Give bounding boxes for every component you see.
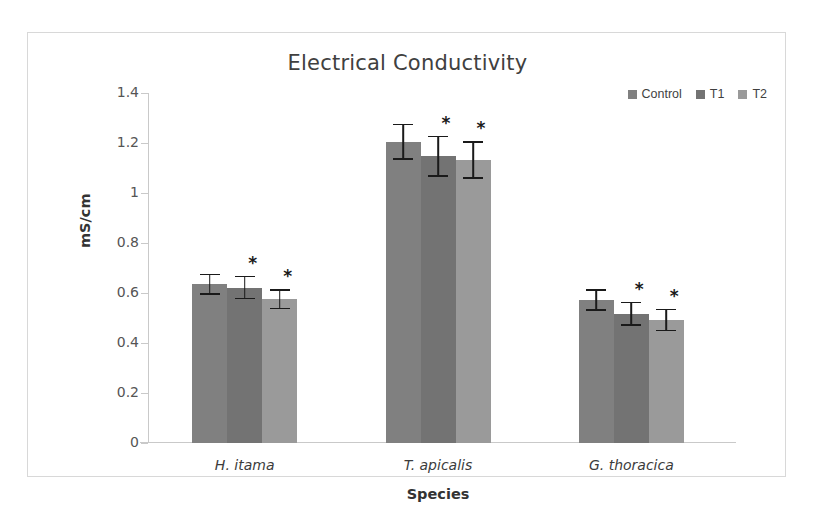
error-bar-cap-bottom — [200, 293, 220, 295]
error-bar — [621, 302, 641, 326]
y-tick-mark — [141, 243, 148, 244]
y-tick-mark — [141, 293, 148, 294]
bar-group-1: **H. itama — [192, 93, 297, 443]
error-bar-line — [244, 276, 246, 300]
error-bar-cap-bottom — [621, 324, 641, 326]
significance-marker: * — [477, 120, 486, 137]
y-tick-mark — [141, 143, 148, 144]
error-bar — [463, 141, 483, 179]
error-bar — [200, 274, 220, 296]
error-bar-line — [279, 289, 281, 309]
error-bar-cap-bottom — [656, 330, 676, 332]
y-tick-label: 1.4 — [117, 84, 139, 100]
bar-t2-3[interactable] — [649, 320, 684, 443]
plot-area: 00.20.40.60.811.21.4 **H. itama**T. apic… — [148, 93, 728, 443]
bar-group-3: **G. thoracica — [579, 93, 684, 443]
y-tick-label: 0.6 — [117, 284, 139, 300]
x-tick-label: T. apicalis — [404, 457, 473, 473]
bar-control-3[interactable] — [579, 300, 614, 443]
y-axis-line — [148, 93, 149, 443]
y-tick-label: 0 — [130, 434, 139, 450]
error-bar-line — [666, 309, 668, 332]
bar-slot: * — [227, 93, 262, 443]
error-bar-cap-bottom — [428, 175, 448, 177]
error-bar — [393, 124, 413, 161]
significance-marker: * — [635, 281, 644, 298]
bar-control-1[interactable] — [192, 284, 227, 443]
error-bar-line — [472, 141, 474, 179]
x-tick-label: G. thoracica — [589, 457, 674, 473]
bar-slot: * — [649, 93, 684, 443]
bar-slot — [192, 93, 227, 443]
y-tick-mark — [141, 93, 148, 94]
y-tick-label: 0.4 — [117, 334, 139, 350]
error-bar-cap-top — [200, 274, 220, 276]
significance-marker: * — [283, 268, 292, 285]
x-tick-label: H. itama — [215, 457, 275, 473]
chart-title: Electrical Conductivity — [28, 51, 787, 75]
x-axis-title: Species — [148, 486, 728, 502]
bar-t1-2[interactable] — [421, 156, 456, 443]
legend-label: T2 — [752, 87, 767, 101]
y-tick-mark — [141, 393, 148, 394]
bar-slot: * — [262, 93, 297, 443]
error-bar-line — [209, 274, 211, 296]
error-bar-cap-bottom — [393, 158, 413, 160]
significance-marker: * — [670, 288, 679, 305]
error-bar — [586, 289, 606, 311]
y-tick-label: 0.8 — [117, 234, 139, 250]
y-tick-label: 1.2 — [117, 134, 139, 150]
error-bar — [270, 289, 290, 309]
error-bar-cap-top — [463, 141, 483, 143]
error-bar-cap-top — [586, 289, 606, 291]
error-bar-cap-top — [393, 124, 413, 126]
y-tick-label: 0.2 — [117, 384, 139, 400]
error-bar-cap-bottom — [270, 308, 290, 310]
chart-screenshot: Electrical Conductivity ControlT1T2 mS/c… — [0, 0, 814, 506]
bar-control-2[interactable] — [386, 142, 421, 443]
bar-slot — [386, 93, 421, 443]
bar-t2-2[interactable] — [456, 160, 491, 443]
bar-t2-1[interactable] — [262, 299, 297, 443]
error-bar-line — [596, 289, 598, 311]
y-tick-mark — [141, 443, 148, 444]
error-bar — [656, 309, 676, 332]
bar-slot — [579, 93, 614, 443]
error-bar-cap-top — [656, 309, 676, 311]
error-bar-cap-bottom — [235, 298, 255, 300]
error-bar — [428, 136, 448, 177]
legend-entry-t2: T2 — [738, 87, 767, 101]
y-tick-mark — [141, 343, 148, 344]
plot-inner: 00.20.40.60.811.21.4 **H. itama**T. apic… — [148, 93, 728, 443]
error-bar-line — [631, 302, 633, 326]
bar-slot: * — [456, 93, 491, 443]
bar-t1-3[interactable] — [614, 314, 649, 444]
error-bar-cap-bottom — [586, 309, 606, 311]
significance-marker: * — [442, 115, 451, 132]
bar-t1-1[interactable] — [227, 288, 262, 444]
chart-frame: Electrical Conductivity ControlT1T2 mS/c… — [27, 32, 786, 477]
error-bar-cap-bottom — [463, 177, 483, 179]
y-tick-mark — [141, 193, 148, 194]
error-bar-cap-top — [428, 136, 448, 138]
bar-slot: * — [614, 93, 649, 443]
bar-group-2: **T. apicalis — [386, 93, 491, 443]
error-bar-line — [437, 136, 439, 177]
y-axis-title: mS/cm — [77, 193, 93, 248]
significance-marker: * — [248, 255, 257, 272]
error-bar-line — [402, 124, 404, 161]
y-tick-label: 1 — [130, 184, 139, 200]
error-bar-cap-top — [235, 276, 255, 278]
error-bar-cap-top — [621, 302, 641, 304]
error-bar — [235, 276, 255, 300]
legend-swatch-icon — [738, 90, 747, 99]
error-bar-cap-top — [270, 289, 290, 291]
bar-slot: * — [421, 93, 456, 443]
